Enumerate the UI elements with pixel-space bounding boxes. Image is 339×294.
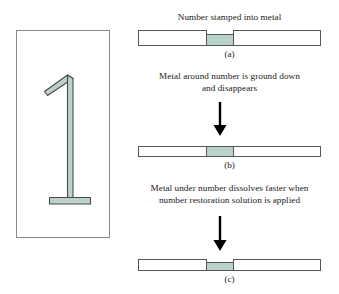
numeral-one-figure: [17, 31, 111, 239]
bar-left-segment: [139, 31, 207, 46]
caption-line: Number stamped into metal: [120, 11, 339, 23]
arrow-head: [214, 125, 227, 136]
caption-line: Metal under number dissolves faster when: [120, 182, 339, 194]
step-label-c: (c): [120, 274, 339, 285]
bar-right-segment: [234, 31, 321, 46]
step-label-b: (b): [120, 160, 339, 171]
bar-stamped-notch: [207, 35, 234, 46]
illustration-panel: [16, 30, 110, 238]
down-arrow-to-step-c: [120, 212, 339, 254]
down-arrow-to-step-b: [120, 99, 339, 139]
numeral-one-stem: [68, 75, 74, 199]
bar-left-segment: [139, 260, 207, 271]
metal-bar-step-a: [120, 28, 339, 50]
numeral-one-base: [50, 198, 91, 205]
diagram-root: Number stamped into metal (a) Metal arou…: [0, 0, 339, 294]
metal-bar-step-c: [120, 256, 339, 276]
bar-right-segment: [234, 260, 321, 271]
bar-stamped-notch: [207, 147, 234, 157]
step-label-a: (a): [120, 49, 339, 60]
caption-line: and disappears: [120, 82, 339, 94]
arrow-head: [214, 240, 227, 251]
caption-line: Metal around number is ground down: [120, 70, 339, 82]
caption-step-a: Number stamped into metal: [120, 11, 339, 23]
bar-dissolved-notch: [207, 263, 234, 271]
caption-step-b: Metal around number is ground down and d…: [120, 70, 339, 94]
metal-bar-step-b: [120, 143, 339, 161]
caption-line: number restoration solution is applied: [120, 194, 339, 206]
caption-step-c: Metal under number dissolves faster when…: [120, 182, 339, 206]
